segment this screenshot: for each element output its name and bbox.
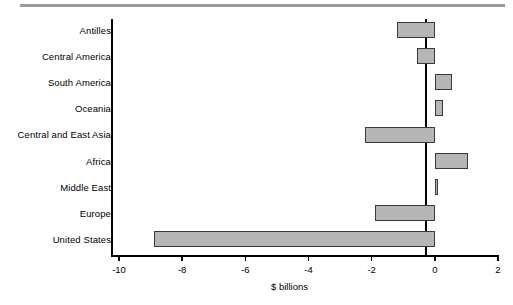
x-axis-title-text: $ billions bbox=[271, 281, 308, 292]
x-axis-tick bbox=[434, 256, 436, 261]
y-axis-tick-label: South America bbox=[48, 78, 111, 88]
x-axis-tick-label: -10 bbox=[112, 264, 126, 275]
x-axis-spine bbox=[111, 255, 499, 257]
x-axis-tick-label: 2 bbox=[495, 264, 500, 275]
bar-chart-plot: Antilles Central America South America O… bbox=[0, 0, 513, 305]
x-axis-tick bbox=[245, 256, 247, 261]
x-axis-tick-label: 0 bbox=[432, 264, 437, 275]
x-axis-tick-label: -4 bbox=[304, 264, 312, 275]
bar bbox=[365, 127, 434, 143]
x-axis-tick-label: -2 bbox=[367, 264, 375, 275]
bar bbox=[154, 231, 435, 247]
x-axis-tick bbox=[181, 256, 183, 261]
y-axis-tick-label: Oceania bbox=[75, 104, 111, 114]
x-axis-tick-label: -8 bbox=[178, 264, 186, 275]
bar bbox=[375, 205, 435, 221]
y-axis-tick-label: Central America bbox=[42, 52, 111, 62]
bar bbox=[435, 153, 468, 169]
x-axis-tick bbox=[118, 256, 120, 261]
x-axis-tick bbox=[371, 256, 373, 261]
x-axis-title: $ billions bbox=[0, 281, 513, 292]
y-axis-tick-label: United States bbox=[53, 235, 111, 245]
y-axis-tick-label: Africa bbox=[86, 157, 111, 167]
bar bbox=[417, 48, 434, 64]
bar bbox=[435, 179, 438, 195]
y-axis-tick-label: Middle East bbox=[60, 183, 111, 193]
bar bbox=[435, 100, 443, 116]
x-axis-tick bbox=[308, 256, 310, 261]
y-axis-tick-label: Antilles bbox=[80, 26, 111, 36]
bar bbox=[397, 22, 435, 38]
x-axis-tick bbox=[497, 256, 499, 261]
y-axis-tick-label: Central and East Asia bbox=[18, 130, 111, 140]
x-axis-tick-label: -6 bbox=[241, 264, 249, 275]
y-axis-spine bbox=[111, 19, 113, 256]
y-axis-tick-label: Europe bbox=[80, 209, 111, 219]
chart-page: Antilles Central America South America O… bbox=[0, 0, 513, 305]
bar bbox=[435, 74, 452, 90]
